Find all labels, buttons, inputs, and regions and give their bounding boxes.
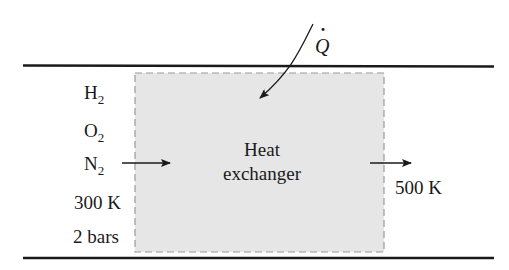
heat-exchanger-label-line1: Heat [244,139,281,160]
inlet-species-n2: N2 [84,153,104,178]
inlet-pressure: 2 bars [73,226,119,247]
heat-exchanger-label-line2: exchanger [223,163,302,184]
heat-rate-dot: · [320,20,326,40]
inlet-species-h2: H2 [84,82,104,107]
pipe-top-wall [23,66,494,67]
heat-exchanger-diagram: Q · H2 O2 N2 300 K 2 bars Heat exchanger… [0,0,509,270]
inlet-temperature: 300 K [74,192,121,213]
outlet-temperature: 500 K [395,177,442,198]
inlet-species-o2: O2 [84,120,104,145]
